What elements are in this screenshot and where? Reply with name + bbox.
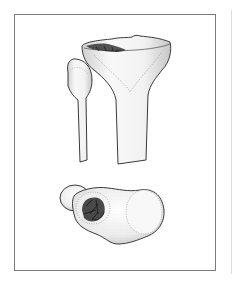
bone-illustration bbox=[0, 0, 233, 284]
tibia bbox=[82, 35, 171, 164]
fibula bbox=[67, 59, 92, 162]
